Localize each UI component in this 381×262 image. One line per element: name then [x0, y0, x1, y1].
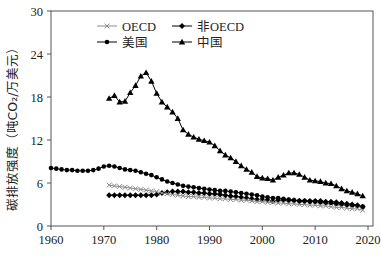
x-tick-label: 2000: [250, 233, 275, 247]
y-tick-label: 18: [31, 91, 44, 105]
x-tick-label: 1970: [91, 233, 116, 247]
x-axis: 1960197019801990200020102020: [39, 226, 381, 247]
y-axis-label: 碳排放强度（吨CO₂/万美元）: [5, 41, 20, 212]
y-tick-label: 6: [37, 177, 43, 191]
x-tick-label: 2020: [356, 233, 381, 247]
legend-label: 非OECD: [197, 20, 244, 34]
x-tick-label: 2010: [303, 233, 328, 247]
y-tick-label: 30: [31, 5, 44, 19]
x-tick-label: 1990: [197, 233, 222, 247]
legend-label: OECD: [122, 20, 156, 34]
x-tick-label: 1980: [144, 233, 169, 247]
y-tick-label: 0: [37, 220, 43, 234]
y-tick-label: 24: [31, 48, 44, 62]
legend-label: 美国: [122, 36, 148, 50]
legend-label: 中国: [197, 35, 223, 50]
x-tick-label: 1960: [39, 233, 64, 247]
y-axis: 0612182430: [31, 5, 52, 234]
y-tick-label: 12: [31, 134, 44, 148]
carbon-intensity-chart: 0612182430 1960197019801990200020102020 …: [0, 0, 381, 262]
